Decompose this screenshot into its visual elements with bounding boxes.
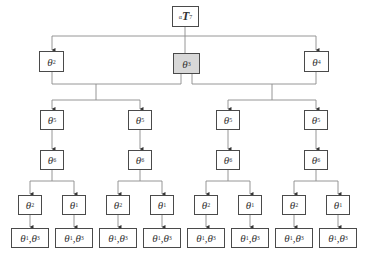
leaf-b-sub: 3: [345, 235, 348, 241]
node-level4: θ2: [194, 195, 218, 215]
leaf-b-sub: 3: [257, 235, 260, 241]
node-sub: 1: [251, 202, 254, 208]
node-theta5: θ5: [40, 110, 64, 130]
node-theta6: θ6: [128, 150, 152, 170]
node-sub: 6: [317, 157, 320, 163]
node-level4: θ1: [150, 195, 174, 215]
root-sub: 7: [189, 14, 192, 20]
node-level4: θ1: [238, 195, 262, 215]
leaf-b-sub: 3: [213, 235, 216, 241]
node-theta2: θ2: [39, 51, 64, 72]
node-sub: 1: [75, 202, 78, 208]
leaf-node: θ1,θ3: [275, 228, 313, 248]
leaf-b-sub: 3: [37, 235, 40, 241]
node-sub: 5: [229, 117, 232, 123]
node-theta6: θ6: [216, 150, 240, 170]
node-sub: 2: [53, 59, 56, 65]
leaf-node: θ1,θ3: [11, 228, 49, 248]
node-sub: 2: [207, 202, 210, 208]
node-level4: θ2: [18, 195, 42, 215]
node-theta3-highlighted: θ3: [173, 53, 200, 74]
node-theta6: θ6: [40, 150, 64, 170]
leaf-b-sub: 3: [301, 235, 304, 241]
node-sub: 5: [141, 117, 144, 123]
node-sub: 5: [317, 117, 320, 123]
node-sub: 6: [53, 157, 56, 163]
leaf-node: θ1,θ3: [187, 228, 225, 248]
leaf-node: θ1,θ3: [231, 228, 269, 248]
node-sub: 5: [53, 117, 56, 123]
node-sub: 2: [295, 202, 298, 208]
node-theta5: θ5: [216, 110, 240, 130]
leaf-b-sub: 3: [125, 235, 128, 241]
node-sub: 3: [188, 61, 191, 67]
node-level4: θ2: [106, 195, 130, 215]
leaf-b-sub: 3: [169, 235, 172, 241]
node-theta5: θ5: [128, 110, 152, 130]
node-theta5: θ5: [304, 110, 328, 130]
leaf-node: θ1,θ3: [143, 228, 181, 248]
node-sub: 6: [141, 157, 144, 163]
node-sub: 6: [229, 157, 232, 163]
node-level4: θ1: [62, 195, 86, 215]
node-theta6: θ6: [304, 150, 328, 170]
node-sub: 1: [339, 202, 342, 208]
node-level4: θ2: [282, 195, 306, 215]
leaf-node: θ1,θ3: [319, 228, 357, 248]
node-level4: θ1: [326, 195, 350, 215]
node-sub: 2: [119, 202, 122, 208]
node-sub: 2: [31, 202, 34, 208]
leaf-node: θ1,θ3: [99, 228, 137, 248]
root-node: αT7: [172, 6, 199, 27]
node-sub: 4: [318, 59, 321, 65]
leaf-b-sub: 3: [81, 235, 84, 241]
node-sub: 1: [163, 202, 166, 208]
node-theta4: θ4: [304, 51, 329, 72]
leaf-node: θ1,θ3: [55, 228, 93, 248]
root-symbol: T: [182, 9, 189, 24]
